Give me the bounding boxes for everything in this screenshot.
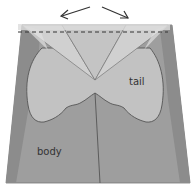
body-label: body	[37, 146, 62, 157]
top-band	[18, 24, 170, 30]
arrow-left-icon	[61, 7, 90, 19]
tail-label: tail	[129, 76, 145, 87]
diagram-canvas: tail body	[0, 0, 195, 195]
arrow-right-icon	[102, 7, 128, 18]
